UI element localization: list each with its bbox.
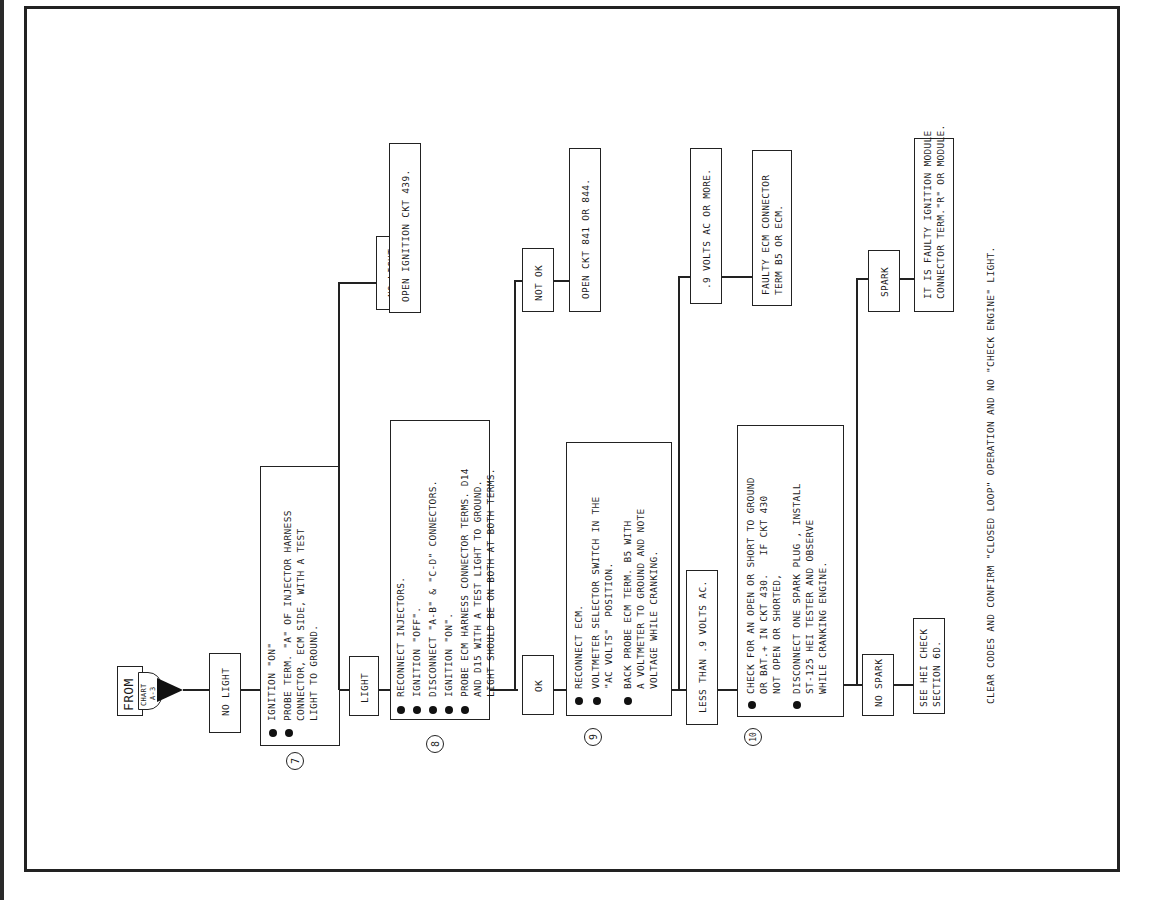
branch-low-voltage-box: LESS THAN .9 VOLTS AC. (686, 570, 718, 725)
result-open-ignition-box: OPEN IGNITION CKT 439. (389, 143, 421, 313)
instruction-text: PROBE ECM HARNESS CONNECTOR TERMS. D14 A… (458, 468, 497, 697)
bullet-icon (624, 697, 632, 705)
instruction-text: IGNITION "ON" (265, 643, 278, 721)
result-text: OPEN CKT 841 OR 844. (579, 179, 592, 299)
instruction-text: VOLTMETER SELECTOR SWITCH IN THE "AC VOL… (589, 496, 615, 689)
step-7-box: IGNITION "ON" PROBE TERM. "A" OF INJECTO… (260, 466, 340, 746)
connector-line (554, 280, 570, 282)
condition-no-light-box: NO LIGHT (209, 653, 241, 733)
connector-line (514, 280, 516, 690)
result-text: OPEN IGNITION CKT 439. (399, 170, 412, 302)
connector-line (856, 278, 868, 280)
step-10-box: CHECK FOR AN OPEN OR SHORT TO GROUND OR … (737, 425, 844, 717)
connector-line (900, 278, 914, 280)
branch-label: OK (532, 680, 545, 692)
connector-line (338, 282, 340, 690)
branch-label: NOT OK (532, 265, 545, 301)
branch-label: NO SPARK (872, 659, 885, 707)
branch-no-spark-box: NO SPARK (862, 654, 894, 716)
branch-label: LESS THAN .9 VOLTS AC. (696, 581, 709, 713)
page-edge (0, 0, 4, 900)
result-text: IT IS FAULTY IGNITION MODULE CONNECTOR T… (921, 124, 947, 299)
result-see-hei-box: SEE HEI CHECK SECTION 6D. (913, 618, 945, 714)
instruction-text: RECONNECT INJECTORS. (394, 577, 407, 697)
step-9-number: 9 (584, 728, 602, 746)
instruction-text: DISCONNECT ONE SPARK PLUG , INSTALL ST-1… (790, 483, 829, 694)
step-10-number: 10 (744, 728, 762, 746)
branch-spark-box: SPARK (868, 250, 900, 312)
step-7-number: 7 (286, 752, 304, 770)
connector-line (554, 689, 566, 691)
bullet-icon (593, 697, 601, 705)
bullet-icon (429, 706, 437, 714)
connector-line (678, 276, 680, 690)
result-faulty-module-box: IT IS FAULTY IGNITION MODULE CONNECTOR T… (914, 138, 954, 312)
result-faulty-ecm-box: FAULTY ECM CONNECTOR TERM B5 OR ECM. (752, 150, 792, 306)
connector-line (722, 276, 752, 278)
connector-line (379, 689, 390, 691)
instruction-text: IGNITION "ON". (442, 613, 455, 697)
result-open-ckt-box: OPEN CKT 841 OR 844. (569, 148, 601, 312)
branch-label: SPARK (878, 267, 891, 297)
connector-line (241, 689, 260, 691)
instruction-text: DISCONNECT "A-B" & "C-D" CONNECTORS. (426, 480, 439, 697)
connector-line (718, 689, 737, 691)
connector-line (672, 689, 687, 691)
bullet-icon (575, 697, 583, 705)
connector-line (514, 280, 522, 282)
condition-label: NO LIGHT (219, 668, 232, 716)
connector-line (183, 689, 209, 691)
result-text: FAULTY ECM CONNECTOR TERM B5 OR ECM. (759, 175, 785, 295)
connector-line (856, 278, 858, 685)
branch-label: LIGHT (358, 673, 371, 703)
branch-label: .9 VOLTS AC OR MORE. (700, 169, 713, 289)
connector-line (894, 684, 914, 686)
step-8-number: 8 (426, 735, 444, 753)
bullet-icon (397, 706, 405, 714)
branch-ok-box: OK (522, 655, 554, 715)
diagram-frame (24, 6, 1120, 872)
branch-not-ok-box: NOT OK (522, 248, 554, 312)
instruction-text: BACK PROBE ECM TERM. B5 WITH A VOLTMETER… (621, 508, 660, 689)
instruction-text: CHECK FOR AN OPEN OR SHORT TO GROUND OR … (744, 477, 783, 694)
bullet-icon (793, 701, 801, 709)
instruction-text: IGNITION "OFF". (410, 607, 423, 697)
step-8-box: RECONNECT INJECTORS. IGNITION "OFF". DIS… (390, 420, 490, 720)
bullet-icon (413, 706, 421, 714)
connector-line (338, 282, 376, 284)
bullet-icon (461, 706, 469, 714)
branch-high-voltage-box: .9 VOLTS AC OR MORE. (690, 148, 722, 304)
arrow-triangle-icon (157, 678, 185, 702)
bullet-icon (269, 729, 277, 737)
bullet-icon (748, 701, 756, 709)
footer-note: CLEAR CODES AND CONFIRM "CLOSED LOOP" OP… (984, 247, 997, 704)
result-text: SEE HEI CHECK SECTION 6D. (917, 629, 943, 707)
branch-light-box: LIGHT (349, 656, 379, 716)
instruction-text: PROBE TERM. "A" OF INJECTOR HARNESS CONN… (281, 510, 320, 721)
bullet-icon (445, 706, 453, 714)
bullet-icon (285, 729, 293, 737)
instruction-text: RECONNECT ECM. (572, 605, 585, 689)
connector-line (678, 276, 690, 278)
from-label: FROM (121, 678, 137, 711)
step-9-box: RECONNECT ECM. VOLTMETER SELECTOR SWITCH… (566, 442, 672, 716)
chart-label: CHART (140, 683, 149, 706)
